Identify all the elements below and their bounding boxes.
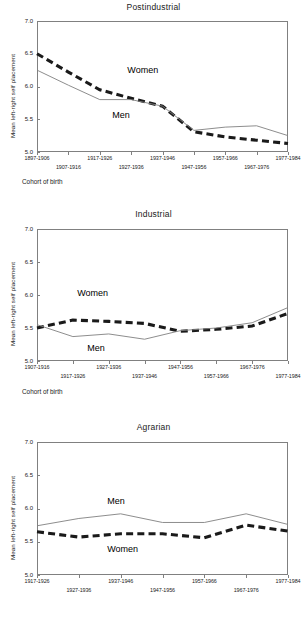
chart-panel-postindustrial: Postindustrial Mean left-right self plac…: [0, 0, 307, 206]
series-lines: [0, 416, 307, 638]
series-annotation-men: Men: [107, 496, 125, 506]
series-lines: [0, 206, 307, 416]
series-annotation-women: Women: [107, 544, 138, 554]
series-line-women: [37, 54, 288, 144]
series-lines: [0, 0, 307, 206]
series-line-men: [37, 308, 288, 340]
series-line-women: [37, 525, 288, 538]
series-line-men: [37, 70, 288, 136]
series-annotation-women: Women: [127, 65, 158, 75]
series-line-men: [37, 514, 288, 526]
series-line-women: [37, 313, 288, 331]
chart-panel-industrial: Industrial Mean left-right self placemen…: [0, 206, 307, 416]
series-annotation-men: Men: [87, 343, 105, 353]
series-annotation-women: Women: [77, 288, 108, 298]
chart-panel-agrarian: Agrarian Mean left-right self placement …: [0, 416, 307, 638]
series-annotation-men: Men: [112, 110, 130, 120]
